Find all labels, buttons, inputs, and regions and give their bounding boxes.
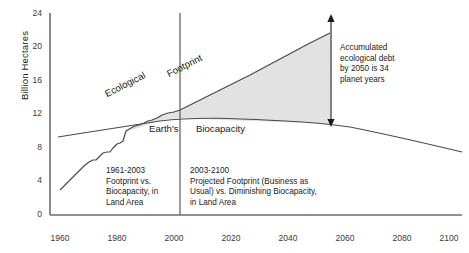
historical-note-line-1: 1961-2003 bbox=[106, 166, 178, 177]
debt-note-line-2: ecological debt bbox=[340, 54, 436, 65]
historical-note-line-2: Footprint vs. bbox=[106, 177, 178, 188]
projected-period-note: 2003-2100 Projected Footprint (Business … bbox=[190, 166, 332, 208]
debt-note-line-4: planet years bbox=[340, 75, 436, 86]
accumulated-debt-note: Accumulated ecological debt by 2050 is 3… bbox=[340, 43, 436, 85]
projected-note-line-2: Projected Footprint (Business as bbox=[190, 177, 332, 188]
ecological-footprint-chart: Billion Hectares 0 4 8 12 16 20 24 1960 … bbox=[0, 0, 469, 253]
historical-note-line-3: Biocapacity, in bbox=[106, 187, 178, 198]
historical-period-note: 1961-2003 Footprint vs. Biocapacity, in … bbox=[106, 166, 178, 208]
debt-note-line-3: by 2050 is 34 bbox=[340, 64, 436, 75]
projected-note-line-4: in Land Area bbox=[190, 198, 332, 209]
historical-note-line-4: Land Area bbox=[106, 198, 178, 209]
biocapacity-label-part1: Earth's bbox=[149, 123, 179, 134]
biocapacity-line bbox=[58, 118, 462, 152]
projected-note-line-1: 2003-2100 bbox=[190, 166, 332, 177]
debt-note-line-1: Accumulated bbox=[340, 43, 436, 54]
ecological-debt-shaded-area bbox=[126, 33, 330, 131]
projected-note-line-3: Usual) vs. Diminishing Biocapacity, bbox=[190, 187, 332, 198]
biocapacity-label-part2: Biocapacity bbox=[196, 123, 245, 134]
